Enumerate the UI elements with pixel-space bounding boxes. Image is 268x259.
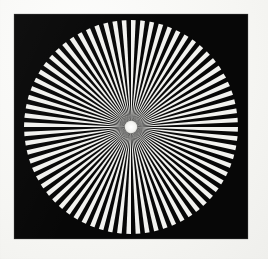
test-pattern-plate <box>14 14 248 239</box>
plate-inner <box>14 14 248 239</box>
figure-root: Radial starburst (Siemens star) test pat… <box>0 0 268 259</box>
starburst-figure <box>22 19 240 235</box>
starburst-svg <box>22 19 240 235</box>
center-hub-icon <box>125 120 137 132</box>
